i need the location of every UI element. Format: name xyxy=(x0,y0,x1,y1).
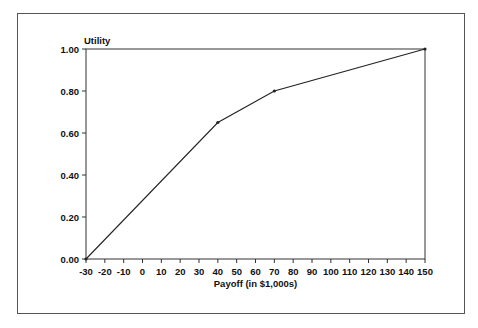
x-tick-label: 40 xyxy=(213,266,224,277)
x-tick-label: 100 xyxy=(323,266,339,277)
x-tick-label: 150 xyxy=(417,266,433,277)
data-point xyxy=(84,257,87,260)
x-tick-label: 30 xyxy=(194,266,205,277)
x-tick-label: -20 xyxy=(98,266,112,277)
x-tick-label: 130 xyxy=(379,266,395,277)
x-tick-label: 90 xyxy=(307,266,318,277)
y-tick-label: 0.60 xyxy=(61,128,80,139)
x-tick-label: -10 xyxy=(117,266,131,277)
y-axis-title: Utility xyxy=(84,35,111,46)
utility-chart: 0.000.200.400.600.801.00-30-20-100102030… xyxy=(0,0,478,328)
x-tick-label: 120 xyxy=(361,266,377,277)
y-tick-label: 0.20 xyxy=(61,212,80,223)
data-point xyxy=(273,89,276,92)
utility-curve xyxy=(86,49,425,259)
x-tick-label: -30 xyxy=(79,266,93,277)
x-tick-label: 110 xyxy=(342,266,357,277)
y-tick-label: 0.40 xyxy=(61,170,80,181)
data-point xyxy=(423,47,426,50)
y-tick-label: 0.00 xyxy=(61,254,80,265)
x-tick-label: 0 xyxy=(140,266,145,277)
x-tick-label: 10 xyxy=(156,266,167,277)
y-tick-label: 1.00 xyxy=(61,44,80,55)
x-tick-label: 50 xyxy=(231,266,242,277)
x-tick-label: 70 xyxy=(269,266,280,277)
x-tick-label: 60 xyxy=(250,266,261,277)
x-axis-title: Payoff (in $1,000s) xyxy=(214,278,297,289)
y-tick-label: 0.80 xyxy=(61,86,80,97)
plot-area xyxy=(86,49,425,259)
x-tick-label: 20 xyxy=(175,266,186,277)
data-point xyxy=(216,121,219,124)
x-tick-label: 80 xyxy=(288,266,299,277)
x-tick-label: 140 xyxy=(398,266,414,277)
